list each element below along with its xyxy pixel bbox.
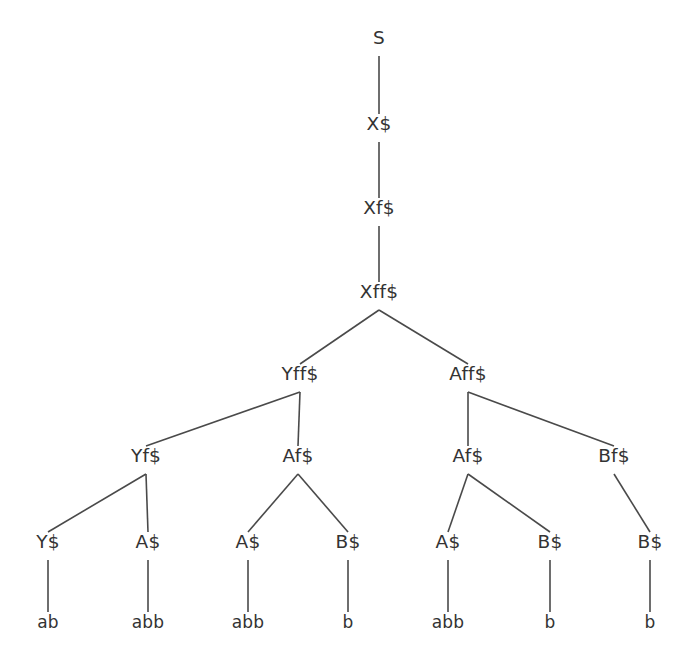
tree-edge [448, 474, 468, 532]
derivation-tree-figure: SX$Xf$Xff$Yff$Aff$Yf$Af$Af$Bf$Y$A$A$B$A$… [0, 0, 687, 662]
tree-leaf-label: abb [132, 612, 165, 632]
tree-canvas: SX$Xf$Xff$Yff$Aff$Yf$Af$Af$Bf$Y$A$A$B$A$… [0, 0, 687, 662]
tree-node-label: A$ [136, 531, 161, 552]
tree-node-label: Xf$ [363, 197, 395, 218]
tree-leaf-label: b [343, 612, 354, 632]
tree-edge [48, 474, 146, 532]
tree-node-label: X$ [367, 113, 392, 134]
tree-node-label: Aff$ [449, 363, 487, 384]
tree-node-label: Af$ [283, 445, 314, 466]
tree-node-label: B$ [538, 531, 563, 552]
tree-node-label: A$ [236, 531, 261, 552]
tree-edge [614, 474, 650, 532]
tree-node-layer: SX$Xf$Xff$Yff$Aff$Yf$Af$Af$Bf$Y$A$A$B$A$… [35, 27, 662, 632]
tree-node-label: S [373, 27, 385, 48]
tree-edge [300, 310, 379, 364]
tree-leaf-label: ab [37, 612, 59, 632]
tree-leaf-label: b [645, 612, 656, 632]
tree-leaf-label: abb [232, 612, 265, 632]
tree-edge [298, 392, 300, 446]
tree-leaf-label: b [545, 612, 556, 632]
tree-edge [468, 474, 550, 532]
tree-node-label: Xff$ [360, 281, 398, 302]
tree-node-label: A$ [436, 531, 461, 552]
tree-edge [298, 474, 348, 532]
tree-node-label: Af$ [453, 445, 484, 466]
tree-edge [468, 392, 614, 446]
tree-node-label: Yff$ [281, 363, 319, 384]
tree-node-label: B$ [638, 531, 663, 552]
tree-node-label: B$ [336, 531, 361, 552]
tree-edge-layer [48, 56, 650, 612]
tree-node-label: Y$ [35, 531, 59, 552]
tree-edge [379, 310, 468, 364]
tree-node-label: Yf$ [130, 445, 161, 466]
tree-edge [146, 392, 300, 446]
tree-node-label: Bf$ [598, 445, 630, 466]
tree-edge [146, 474, 148, 532]
tree-leaf-label: abb [432, 612, 465, 632]
tree-edge [248, 474, 298, 532]
